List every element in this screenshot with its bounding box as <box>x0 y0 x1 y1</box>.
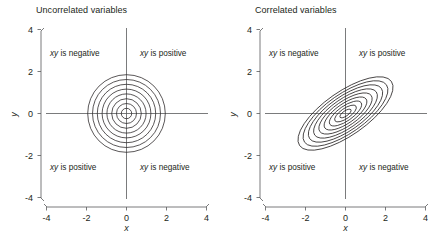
x-tick-label: 2 <box>164 213 169 223</box>
quadrant-label-top-right: xy is positive <box>358 49 406 58</box>
y-tick-label: 0 <box>28 109 33 119</box>
quadrant-label-bottom-left: xy is positive <box>268 163 316 172</box>
y-tick-label: -2 <box>25 151 33 161</box>
y-tick-label: -2 <box>244 151 252 161</box>
y-tick-label: 0 <box>247 109 252 119</box>
x-axis-label: x <box>123 223 129 233</box>
y-tick-label: -4 <box>25 193 33 203</box>
x-tick-label: 0 <box>343 213 348 223</box>
y-axis-label: y <box>9 112 19 118</box>
x-tick-label: 0 <box>124 213 129 223</box>
y-tick-label: 2 <box>247 67 252 77</box>
y-tick-label: 2 <box>28 67 33 77</box>
x-tick-label: -2 <box>301 213 309 223</box>
quadrant-label-bottom-right: xy is negative <box>139 163 190 172</box>
panel-correlated: Correlated variables <box>219 0 438 233</box>
y-axis-spine <box>260 28 263 201</box>
y-tick-label: 4 <box>247 25 252 35</box>
quadrant-label-bottom-right: xy is negative <box>358 163 409 172</box>
y-tick-label: -4 <box>244 193 252 203</box>
x-tick-label: 4 <box>423 213 428 223</box>
x-tick-label: 2 <box>383 213 388 223</box>
x-axis-label: x <box>342 223 348 233</box>
quadrant-label-top-left: xy is negative <box>49 49 100 58</box>
x-tick-label: -4 <box>261 213 269 223</box>
quadrant-label-top-left: xy is negative <box>268 49 319 58</box>
quadrant-label-bottom-left: xy is positive <box>49 163 97 172</box>
x-axis-spine <box>44 204 209 207</box>
plot-correlated: 4 2 0 -2 -4 -4 -2 0 2 4 x y xy is negati… <box>219 0 438 233</box>
y-tick-label: 4 <box>28 25 33 35</box>
plot-uncorrelated: 4 2 0 -2 -4 -4 -2 0 2 4 x y xy is negati… <box>0 0 219 233</box>
x-axis-spine <box>263 204 428 207</box>
x-tick-label: 4 <box>204 213 209 223</box>
x-tick-label: -4 <box>42 213 50 223</box>
panel-uncorrelated: Uncorrelated variables <box>0 0 219 233</box>
y-axis-label: y <box>228 112 238 118</box>
y-axis-spine <box>41 28 44 201</box>
quadrant-label-top-right: xy is positive <box>139 49 187 58</box>
contour-figure: Uncorrelated variables <box>0 0 438 233</box>
x-tick-label: -2 <box>82 213 90 223</box>
